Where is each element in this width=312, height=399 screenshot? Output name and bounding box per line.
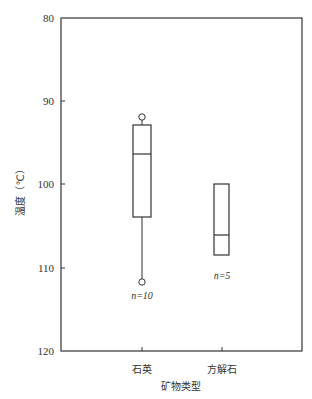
y-tick-80: 80 — [43, 12, 55, 24]
y-tick-120: 120 — [38, 345, 55, 357]
x-axis-title: 矿物类型 — [161, 380, 201, 392]
y-axis-title: 温度（℃） — [14, 164, 26, 215]
y-tick-110: 110 — [38, 262, 55, 274]
box-calcite: n=5 — [214, 184, 231, 281]
box-quartz: n=10 — [131, 114, 153, 301]
plot-frame — [61, 18, 302, 351]
y-tick-100: 100 — [38, 178, 55, 190]
x-category-calcite: 方解石 — [207, 363, 237, 375]
sample-size-quartz: n=10 — [131, 290, 153, 301]
cropped-figure-caption — [0, 392, 312, 399]
outlier-high-marker — [139, 114, 145, 120]
outlier-low-marker — [139, 279, 145, 285]
sample-size-calcite: n=5 — [214, 270, 231, 281]
x-category-quartz: 石英 — [132, 363, 152, 375]
y-tick-90: 90 — [43, 95, 55, 107]
x-axis: 石英 方解石 矿物类型 — [132, 347, 237, 392]
box-plot-chart: 80 90 100 110 120 温度（℃） 石英 方解石 矿物类型 n=10… — [0, 0, 312, 399]
